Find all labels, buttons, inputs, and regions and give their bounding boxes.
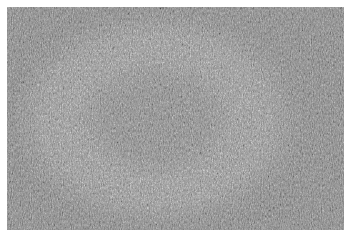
micrograph-image bbox=[7, 7, 344, 230]
fibrous-texture-graphic bbox=[7, 7, 344, 230]
